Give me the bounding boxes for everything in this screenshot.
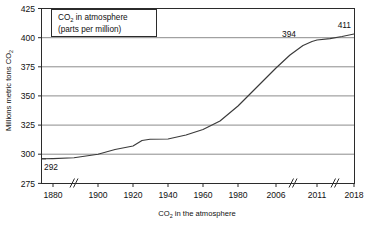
x-tick-label-1980: 1980 <box>228 190 247 200</box>
y-tick-label-400: 400 <box>21 33 36 43</box>
y-tick-label-275: 275 <box>21 179 36 189</box>
data-label-292: 292 <box>44 162 58 172</box>
chart-title-box: CO2 in atmosphere (parts per million) <box>52 10 157 37</box>
y-axis-title-main: Millions metric tons CO <box>4 53 13 131</box>
x-axis-title-rest: in the atmosphere <box>173 209 236 218</box>
x-tick-label-1940: 1940 <box>158 190 177 200</box>
x-tick-label-2018: 2018 <box>344 190 363 200</box>
co2-line-chart: 425 400 375 350 325 300 275 Millions met… <box>0 0 373 225</box>
x-tick-label-1920: 1920 <box>123 190 142 200</box>
chart-title-rest: in atmosphere <box>74 13 129 22</box>
y-tick-label-300: 300 <box>21 149 36 159</box>
chart-subtitle: (parts per million) <box>58 25 122 34</box>
y-axis-title-subscript: 2 <box>8 50 14 53</box>
x-tick-label-1880: 1880 <box>43 190 62 200</box>
chart-canvas: 425 400 375 350 325 300 275 Millions met… <box>0 0 373 225</box>
x-axis-title-main: CO <box>158 209 169 218</box>
x-tick-label-2006: 2006 <box>266 190 285 200</box>
x-tick-label-1960: 1960 <box>193 190 212 200</box>
y-tick-label-375: 375 <box>21 62 36 72</box>
chart-title-main: CO <box>58 13 70 22</box>
x-tick-label-1900: 1900 <box>88 190 107 200</box>
y-axis-title: Millions metric tons CO2 <box>4 50 14 131</box>
x-tick-label-2011: 2011 <box>308 190 327 200</box>
data-label-394: 394 <box>282 29 296 39</box>
y-tick-label-425: 425 <box>21 4 36 14</box>
chart-title: CO2 in atmosphere <box>58 13 128 23</box>
data-label-411: 411 <box>338 20 352 30</box>
y-tick-label-350: 350 <box>21 91 36 101</box>
y-tick-label-325: 325 <box>21 120 36 130</box>
